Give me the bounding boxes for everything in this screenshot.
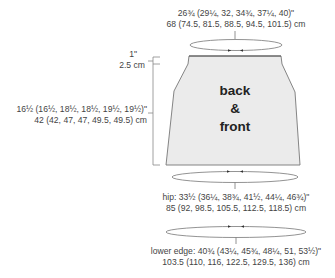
schematic-drawing xyxy=(0,0,335,278)
top-width-cm: 68 (74.5, 81.5, 88.5, 94.5, 101.5) cm xyxy=(166,19,305,30)
hip-circumference-ellipse xyxy=(172,170,298,189)
top-width-label: 26¾ (29¼, 32, 34¾, 37¼, 40)" 68 (74.5, 8… xyxy=(166,8,305,30)
waistband-label: 1" 2.5 cm xyxy=(85,49,145,71)
piece-label-line-1: back xyxy=(220,82,251,100)
length-label: 16½ (16½, 18½, 18½, 19½, 19½)" 42 (42, 4… xyxy=(16,104,147,126)
waistband-cm: 2.5 cm xyxy=(85,60,145,71)
length-cm: 42 (42, 47, 47, 49.5, 49.5) cm xyxy=(16,115,147,126)
piece-label: back & front xyxy=(220,82,251,136)
lower-edge-inches: lower edge: 40¾ (43¼, 45¾, 48¼, 51, 53½)… xyxy=(151,246,321,257)
lower-edge-circumference-ellipse xyxy=(166,225,306,244)
top-circumference-ellipse xyxy=(190,31,282,52)
lower-edge-cm: 103.5 (110, 116, 122.5, 129.5, 136) cm xyxy=(151,257,321,268)
top-width-inches: 26¾ (29¼, 32, 34¾, 37¼, 40)" xyxy=(166,8,305,19)
length-bracket xyxy=(148,57,160,165)
waistband-inches: 1" xyxy=(85,49,145,60)
piece-label-line-2: & xyxy=(220,100,251,118)
hip-cm: 85 (92, 98.5, 105.5, 112.5, 118.5) cm xyxy=(163,203,310,214)
hip-label: hip: 33½ (36¼, 38¾, 41½, 44¼, 46¾)" 85 (… xyxy=(163,192,310,214)
lower-edge-label: lower edge: 40¾ (43¼, 45¾, 48¼, 51, 53½)… xyxy=(151,246,321,268)
hip-inches: hip: 33½ (36¼, 38¾, 41½, 44¼, 46¾)" xyxy=(163,192,310,203)
length-inches: 16½ (16½, 18½, 18½, 19½, 19½)" xyxy=(16,104,147,115)
piece-label-line-3: front xyxy=(220,118,251,136)
